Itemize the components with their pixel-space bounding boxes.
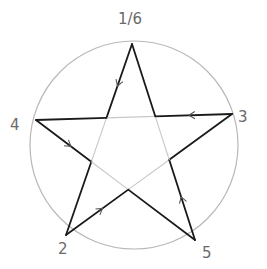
vertex-label-5: 5 (202, 244, 212, 262)
vertex-label-2: 2 (58, 240, 68, 258)
vertex-label-1-6: 1/6 (118, 10, 142, 28)
star-edge-segment (155, 114, 232, 116)
star-edge-segment (128, 190, 195, 240)
vertex-label-4: 4 (10, 116, 20, 134)
star-edge-segment (128, 160, 169, 190)
star-edge-segment (66, 162, 91, 235)
star-edge-segment (169, 114, 232, 160)
star-edge-segment (91, 118, 106, 162)
vertex-label-3: 3 (238, 108, 248, 126)
star-edge-segment (36, 120, 91, 162)
star-edge-segment (106, 44, 132, 118)
circumscribed-circle (30, 41, 238, 249)
star-edge-segment (106, 116, 155, 117)
star-edges (36, 44, 232, 240)
star-edge-segment (169, 160, 195, 240)
star-edge-segment (36, 118, 106, 120)
direction-arrows (64, 79, 195, 215)
star-edge-segment (132, 44, 155, 116)
pentagram-diagram: 1/6 2 3 4 5 (0, 0, 267, 269)
star-edge-segment (66, 190, 128, 235)
star-edge-segment (155, 116, 169, 159)
star-edge-segment (91, 162, 128, 190)
